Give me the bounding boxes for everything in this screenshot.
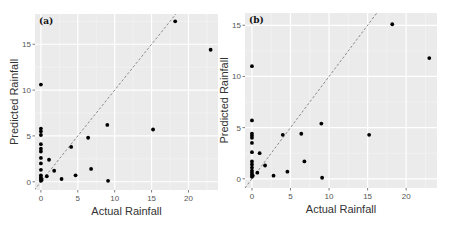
data-point (74, 173, 78, 177)
data-point (40, 178, 44, 182)
data-point (39, 168, 43, 172)
x-axis-title: Actual Rainfall (91, 205, 161, 217)
figure: 05101520051015Actual RainfallPredicted R… (0, 0, 451, 233)
data-point (39, 133, 43, 137)
data-point (390, 22, 394, 26)
data-point (39, 156, 43, 160)
y-axis-title: Predicted Rainfall (8, 59, 20, 145)
x-tick-label: 0 (39, 194, 44, 203)
x-tick-label: 5 (76, 194, 81, 203)
y-tick-label: 5 (27, 132, 32, 141)
data-point (302, 159, 306, 163)
data-point (39, 129, 43, 133)
data-point (209, 48, 213, 52)
data-point (47, 158, 51, 162)
x-axis: 05101520 (39, 190, 194, 203)
data-point (60, 177, 64, 181)
data-point (250, 136, 254, 140)
data-point (39, 83, 43, 87)
data-point (367, 133, 371, 137)
data-point (250, 64, 254, 68)
x-tick-label: 0 (250, 192, 255, 201)
x-tick-label: 10 (325, 192, 334, 201)
y-tick-label: 5 (237, 124, 242, 133)
y-tick-label: 10 (22, 86, 31, 95)
data-point (255, 171, 259, 175)
data-point (250, 150, 254, 154)
plot-background (35, 14, 218, 190)
data-point (39, 162, 43, 166)
data-point (319, 122, 323, 126)
data-point (286, 170, 290, 174)
data-point (250, 119, 254, 123)
x-tick-label: 15 (147, 194, 156, 203)
data-point (263, 164, 267, 168)
data-point (45, 174, 49, 178)
data-point (39, 142, 43, 146)
scatter-panel-b: 05101520051015Actual RainfallPredicted R… (218, 0, 437, 215)
data-point (272, 174, 276, 178)
y-tick-label: 15 (232, 21, 241, 30)
panel-label: (a) (39, 16, 53, 26)
panel-label: (b) (249, 15, 264, 25)
x-axis-title: Actual Rainfall (306, 203, 376, 215)
data-point (427, 56, 431, 60)
plot-background (245, 13, 437, 188)
y-tick-label: 15 (22, 40, 31, 49)
data-point (281, 133, 285, 137)
y-axis: 051015 (232, 21, 245, 184)
y-tick-label: 10 (232, 72, 241, 81)
data-point (173, 19, 177, 23)
y-axis: 051015 (22, 40, 35, 187)
data-point (320, 176, 324, 180)
data-point (89, 167, 93, 171)
y-tick-label: 0 (237, 175, 242, 184)
data-point (69, 145, 73, 149)
y-axis-title: Predicted Rainfall (218, 57, 230, 143)
x-tick-label: 20 (184, 194, 193, 203)
data-point (258, 151, 262, 155)
data-point (151, 128, 155, 132)
data-point (250, 141, 254, 145)
data-point (52, 169, 56, 173)
data-point (106, 179, 110, 183)
x-tick-label: 20 (402, 192, 411, 201)
x-axis: 05101520 (250, 188, 411, 201)
data-point (299, 132, 303, 136)
x-tick-label: 15 (363, 192, 372, 201)
data-point (251, 174, 255, 178)
x-tick-label: 5 (288, 192, 293, 201)
data-point (86, 136, 90, 140)
data-point (39, 150, 43, 154)
x-tick-label: 10 (110, 194, 119, 203)
y-tick-label: 0 (27, 178, 32, 187)
scatter-panel-a: 05101520051015Actual RainfallPredicted R… (8, 0, 218, 217)
data-point (105, 123, 109, 127)
